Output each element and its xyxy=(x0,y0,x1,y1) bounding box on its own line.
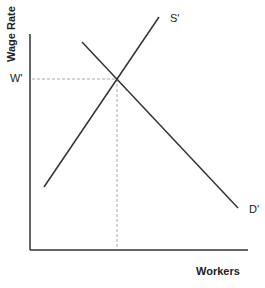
supply-curve xyxy=(44,17,159,187)
chart-canvas xyxy=(0,0,265,288)
demand-curve xyxy=(82,42,238,208)
equilibrium-wage-label: W' xyxy=(10,73,22,84)
y-axis-label: Wage Rate xyxy=(5,6,17,62)
supply-label: S' xyxy=(170,13,179,24)
x-axis-label: Workers xyxy=(196,266,240,277)
demand-label: D' xyxy=(249,204,259,215)
